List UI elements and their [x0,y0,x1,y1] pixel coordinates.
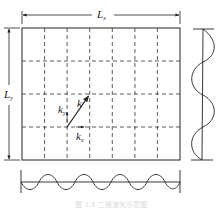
label-k: k [76,98,83,109]
label-ky: ky [57,104,67,116]
label-lx: Lx [96,9,107,21]
horizontal-wave [21,170,180,193]
figure-caption: 图 1.1 二维波矢示意图 [0,199,222,209]
label-kx: kx [75,131,85,143]
label-ly: Ly [3,89,14,101]
vertical-wave [191,29,214,160]
grid-lines [22,28,180,160]
wave-vector-diagram [0,0,222,210]
